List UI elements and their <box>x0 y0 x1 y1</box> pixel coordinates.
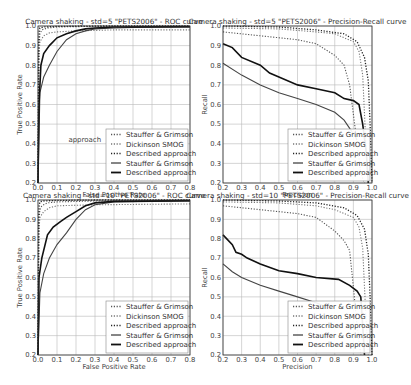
y-tick-label: 0.8 <box>25 62 36 70</box>
legend-label: Stauffer & Grimson <box>308 332 375 340</box>
legend: Stauffer & GrimsonDickinson SMOGDescribe… <box>288 129 378 181</box>
legend-label: Dickinson SMOG <box>126 141 184 149</box>
legend: Stauffer & GrimsonDickinson SMOGDescribe… <box>106 129 196 181</box>
y-tick-label: 0.5 <box>210 120 221 128</box>
y-tick-label: 0.6 <box>210 101 221 109</box>
x-tick-label: 1.0 <box>367 356 378 364</box>
y-axis-label: True Positive Rate <box>16 74 24 136</box>
figure-canvas: 0.00.10.20.30.40.50.60.70.80.20.30.40.50… <box>0 0 411 385</box>
legend-label: Stauffer & Grimson <box>126 160 193 168</box>
y-tick-label: 0.2 <box>210 351 221 359</box>
x-tick-label: 0.1 <box>52 356 63 364</box>
y-tick-label: 0.7 <box>210 254 221 262</box>
annotation-text: approach <box>68 136 101 144</box>
legend-label: Stauffer & Grimson <box>308 303 375 311</box>
y-tick-label: 0.8 <box>210 235 221 243</box>
x-tick-label: 0.9 <box>348 356 359 364</box>
y-tick-label: 0.6 <box>210 274 221 282</box>
x-axis-label: Precision <box>282 363 312 371</box>
legend-label: Described approach <box>308 150 378 158</box>
legend-label: Described approach <box>126 322 196 330</box>
y-tick-label: 0.9 <box>210 42 221 50</box>
chart-pr_std5: 0.20.30.40.50.60.70.80.91.00.20.30.40.50… <box>188 17 407 199</box>
y-tick-label: 0.4 <box>25 313 36 321</box>
y-tick-label: 0.5 <box>25 293 36 301</box>
y-axis-label: Recall <box>201 94 209 114</box>
y-tick-label: 0.5 <box>210 293 221 301</box>
y-tick-label: 0.8 <box>25 235 36 243</box>
chart-pr_std10: 0.20.30.40.50.60.70.80.91.00.20.30.40.50… <box>186 191 409 371</box>
chart-roc_std10: 0.00.10.20.30.40.50.60.70.80.20.30.40.50… <box>16 191 206 371</box>
x-tick-label: 0.8 <box>329 356 340 364</box>
y-tick-label: 0.4 <box>25 140 36 148</box>
legend-label: Dickinson SMOG <box>308 313 366 321</box>
x-tick-label: 0.4 <box>255 356 266 364</box>
y-tick-label: 0.2 <box>25 351 36 359</box>
y-tick-label: 0.3 <box>25 160 36 168</box>
chart-title: Camera shaking - std=10 "PETS2006" - ROC… <box>23 191 206 200</box>
y-tick-label: 0.9 <box>25 216 36 224</box>
y-tick-label: 0.4 <box>210 313 221 321</box>
y-tick-label: 0.6 <box>25 274 36 282</box>
y-tick-label: 0.2 <box>25 179 36 187</box>
legend-label: Described approach <box>126 169 196 177</box>
x-tick-label: 0.6 <box>147 356 158 364</box>
x-tick-label: 0.8 <box>185 356 196 364</box>
y-tick-label: 0.9 <box>25 42 36 50</box>
series-line <box>223 63 357 140</box>
chart-roc_std5: 0.00.10.20.30.40.50.60.70.80.20.30.40.50… <box>16 17 203 199</box>
legend-label: Described approach <box>308 169 378 177</box>
y-tick-label: 0.3 <box>210 332 221 340</box>
legend-label: Stauffer & Grimson <box>126 303 193 311</box>
legend-label: Stauffer & Grimson <box>126 131 193 139</box>
legend-label: Described approach <box>126 150 196 158</box>
legend-label: Stauffer & Grimson <box>308 160 375 168</box>
legend-label: Described approach <box>126 341 196 349</box>
y-tick-label: 0.6 <box>25 101 36 109</box>
y-tick-label: 0.7 <box>210 81 221 89</box>
y-tick-label: 0.5 <box>25 120 36 128</box>
x-axis-label: False Positive Rate <box>82 363 145 371</box>
legend-label: Described approach <box>308 322 378 330</box>
y-tick-label: 0.4 <box>210 140 221 148</box>
y-axis-label: True Positive Rate <box>16 247 24 309</box>
legend-label: Dickinson SMOG <box>308 141 366 149</box>
y-tick-label: 0.2 <box>210 179 221 187</box>
x-tick-label: 0.3 <box>236 356 247 364</box>
legend: Stauffer & GrimsonDickinson SMOGDescribe… <box>288 301 378 353</box>
y-tick-label: 0.3 <box>210 160 221 168</box>
legend: Stauffer & GrimsonDickinson SMOGDescribe… <box>106 301 196 353</box>
y-tick-label: 0.3 <box>25 332 36 340</box>
legend-label: Dickinson SMOG <box>126 313 184 321</box>
y-tick-label: 0.8 <box>210 62 221 70</box>
chart-title: Camera shaking - std=5 "PETS2006" - ROC … <box>25 17 203 26</box>
y-tick-label: 0.7 <box>25 81 36 89</box>
legend-label: Described approach <box>308 341 378 349</box>
y-axis-label: Recall <box>201 267 209 287</box>
y-tick-label: 0.9 <box>210 216 221 224</box>
x-tick-label: 0.7 <box>166 356 177 364</box>
series-line <box>223 264 325 307</box>
chart-title: Camera shaking - std=5 "PETS2006" - Prec… <box>188 17 407 26</box>
x-tick-label: 0.2 <box>71 356 82 364</box>
y-tick-label: 0.7 <box>25 254 36 262</box>
legend-label: Stauffer & Grimson <box>126 332 193 340</box>
legend-label: Stauffer & Grimson <box>308 131 375 139</box>
chart-title: Camera shaking - std=10 "PETS2006" - Pre… <box>186 191 409 200</box>
